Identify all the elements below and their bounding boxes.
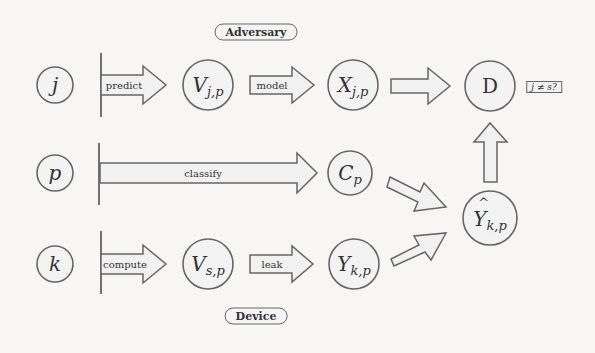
input-label-j: j <box>52 73 58 97</box>
input-label-p: p <box>49 161 62 185</box>
node-label-y-hat-kp: Yk,p <box>473 207 507 233</box>
node-label-d: D <box>482 74 498 98</box>
node-label-x-jp: Xj,p <box>338 73 369 99</box>
node-label-v-jp: Vj,p <box>193 73 224 99</box>
diagram-canvas <box>0 0 595 353</box>
condition-box: j ≠ s? <box>526 81 562 93</box>
hat-accent: Y <box>473 207 486 231</box>
arrow-label-leak: leak <box>261 259 282 270</box>
arrow-yhat-to-d <box>474 123 507 182</box>
adversary-label: Adversary <box>215 24 298 41</box>
node-label-c-p: Cp <box>338 161 362 187</box>
arrow-to-d <box>391 68 450 104</box>
arrow-cp-to-yhat <box>387 177 446 211</box>
arrow-label-model: model <box>256 80 287 91</box>
device-label: Device <box>225 308 288 325</box>
arrow-ykp-to-yhat <box>391 233 446 266</box>
arrow-label-compute: compute <box>103 259 147 270</box>
arrow-label-classify: classify <box>184 168 222 179</box>
input-label-k: k <box>49 252 61 276</box>
arrow-label-predict: predict <box>106 80 142 91</box>
node-label-y-kp: Yk,p <box>337 252 371 278</box>
node-label-v-sp: Vs,p <box>191 252 225 278</box>
